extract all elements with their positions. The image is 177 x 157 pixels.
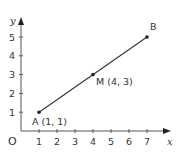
x-tick-label: 2 bbox=[54, 136, 60, 147]
x-tick-label: 3 bbox=[72, 136, 78, 147]
point-b-label: B bbox=[150, 21, 157, 32]
x-tick-label: 7 bbox=[144, 136, 150, 147]
point-m-label: M (4, 3) bbox=[96, 76, 133, 87]
x-tick-label: 1 bbox=[36, 136, 42, 147]
y-axis-label: y bbox=[9, 15, 16, 26]
point-m bbox=[91, 73, 95, 77]
y-tick-label: 4 bbox=[9, 50, 15, 61]
point-a-label: A (1, 1) bbox=[32, 116, 67, 127]
y-axis-arrow-icon bbox=[18, 17, 24, 25]
y-tick-label: 1 bbox=[9, 107, 15, 118]
x-axis-label: x bbox=[167, 136, 173, 147]
x-axis-arrow-icon bbox=[163, 128, 171, 134]
y-tick-label: 3 bbox=[9, 69, 15, 80]
origin-label: O bbox=[8, 135, 17, 148]
point-a bbox=[37, 110, 41, 114]
x-tick-label: 5 bbox=[108, 136, 114, 147]
y-tick-label: 5 bbox=[9, 32, 15, 43]
coordinate-chart: 1234567 12345 x y O A (1, 1) M (4, 3) B bbox=[0, 0, 177, 157]
x-tick-label: 6 bbox=[126, 136, 132, 147]
x-tick-label: 4 bbox=[90, 136, 96, 147]
point-b bbox=[145, 35, 149, 39]
y-tick-label: 2 bbox=[9, 88, 15, 99]
x-ticks: 1234567 bbox=[36, 129, 150, 147]
